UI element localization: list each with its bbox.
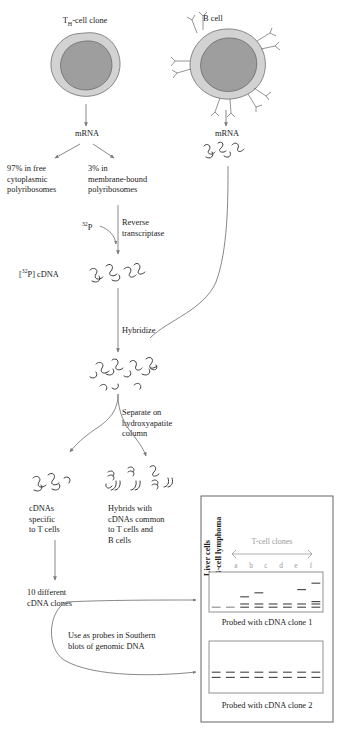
arrow-probe-to-blot1 xyxy=(66,600,196,602)
lane-span-arrow xyxy=(232,550,312,558)
arrow-32p-input xyxy=(100,226,116,244)
blot-1-caption: Probed with cDNA clone 1 xyxy=(222,618,313,627)
pathway-diagram: Liver cells B-cell lymphoma T-cell clone… xyxy=(0,0,337,742)
tcell-clones-group-label: T-cell clones xyxy=(252,537,293,546)
b-cell-illustration xyxy=(171,12,280,117)
hybridized-mix-strands xyxy=(90,357,157,390)
lane-label-c: c xyxy=(264,561,268,570)
blot-2 xyxy=(209,641,323,693)
arrow-separate-left xyxy=(70,394,118,452)
bcell-lymphoma-label: B-cell lymphoma xyxy=(214,517,223,576)
t-cell-illustration xyxy=(51,33,120,97)
blot-1 xyxy=(209,572,323,612)
arrow-mrna-to-free xyxy=(55,144,80,158)
southern-blot-panel: Liver cells B-cell lymphoma T-cell clone… xyxy=(201,496,333,722)
lane-label-e: e xyxy=(294,561,298,570)
bcell-mrna-strands xyxy=(204,142,244,158)
arrow-probe-to-blot2 xyxy=(51,602,196,675)
lane-label-a: a xyxy=(234,561,238,570)
lane-label-d: d xyxy=(279,561,283,570)
lane-label-f: f xyxy=(310,561,313,570)
hybrid-duplex-strands xyxy=(106,466,173,490)
tcell-specific-cdna-strands xyxy=(33,473,70,491)
arrow-mrna-to-membrane xyxy=(93,144,114,158)
liver-cells-label: Liver cells xyxy=(203,540,212,576)
blot-2-caption: Probed with cDNA clone 2 xyxy=(222,701,313,710)
lane-label-b: b xyxy=(249,561,253,570)
p32-cdna-strands xyxy=(90,263,145,282)
arrow-bcell-mrna-to-hybridize xyxy=(150,166,228,338)
arrow-separate-right xyxy=(118,394,146,456)
